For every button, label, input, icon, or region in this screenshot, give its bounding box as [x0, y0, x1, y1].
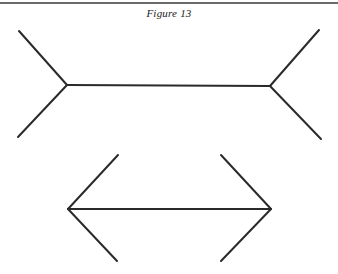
bottom-right-lower-fin	[221, 209, 271, 261]
top-left-lower-fin	[18, 85, 67, 137]
top-shaft	[67, 85, 270, 86]
bottom-left-lower-fin	[68, 209, 117, 261]
bottom-left-upper-fin	[68, 155, 118, 209]
top-right-upper-fin	[270, 30, 319, 86]
top-left-upper-fin	[19, 31, 67, 85]
bottom-right-upper-fin	[221, 155, 271, 209]
top-right-lower-fin	[270, 86, 321, 139]
illusion-diagram	[0, 0, 338, 274]
top-figure-fins-out	[18, 30, 321, 139]
bottom-figure-arrowheads	[68, 155, 271, 261]
